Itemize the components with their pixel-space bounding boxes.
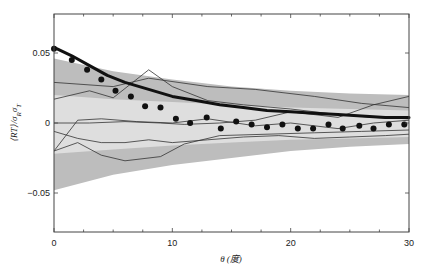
x-tick-label: 0: [51, 238, 56, 248]
data-point: [264, 124, 270, 130]
data-point: [158, 105, 164, 111]
x-axis-label: θ (度): [220, 254, 242, 264]
confidence-bands: [54, 59, 409, 191]
data-point: [279, 121, 285, 127]
data-point: [295, 126, 301, 132]
data-point: [340, 126, 346, 132]
data-point: [218, 126, 224, 132]
data-point: [326, 121, 332, 127]
chart: 0102030 −0.0500.05 θ (度) ⟨RT⟩/σRσT: [0, 0, 426, 273]
data-point: [142, 103, 148, 109]
data-point: [401, 121, 407, 127]
data-point: [128, 93, 134, 99]
data-point: [356, 123, 362, 129]
data-point: [187, 120, 193, 126]
data-point: [310, 126, 316, 132]
x-tick-label: 10: [167, 238, 177, 248]
data-point: [386, 121, 392, 127]
data-point: [84, 67, 90, 73]
y-tick-label: −0.05: [27, 188, 50, 198]
data-point: [249, 121, 255, 127]
data-point: [173, 116, 179, 122]
y-axis-label: ⟨RT⟩/σRσT: [9, 103, 23, 142]
data-point: [204, 114, 210, 120]
x-tick-label: 20: [286, 238, 296, 248]
data-point: [113, 88, 119, 94]
y-tick-label: 0.05: [32, 48, 50, 58]
y-tick-label: 0: [45, 118, 50, 128]
data-point: [371, 126, 377, 132]
data-point: [233, 119, 239, 125]
data-point: [69, 57, 75, 63]
x-tick-label: 30: [404, 238, 414, 248]
data-point: [98, 77, 104, 83]
